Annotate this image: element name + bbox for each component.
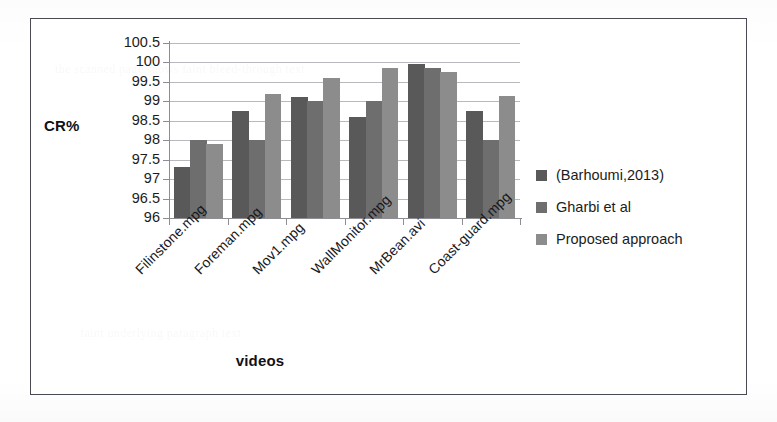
legend-label: Proposed approach bbox=[556, 231, 683, 247]
legend-item-1: Gharbi et al bbox=[536, 198, 683, 216]
chart-legend: (Barhoumi,2013)Gharbi et alProposed appr… bbox=[536, 166, 683, 262]
legend-item-2: Proposed approach bbox=[536, 230, 683, 248]
legend-swatch-icon bbox=[536, 170, 547, 181]
legend-label: (Barhoumi,2013) bbox=[556, 167, 664, 183]
legend-swatch-icon bbox=[536, 202, 547, 213]
legend-label: Gharbi et al bbox=[556, 199, 631, 215]
x-category-label-coast-guard-mpg: Coast-guard.mpg bbox=[425, 188, 514, 277]
legend-item-0: (Barhoumi,2013) bbox=[536, 166, 683, 184]
legend-swatch-icon bbox=[536, 234, 547, 245]
x-category-label-mrbean-avi: MrBean.avi bbox=[366, 215, 428, 277]
x-category-label-mov1-mpg: Mov1.mpg bbox=[249, 219, 307, 277]
